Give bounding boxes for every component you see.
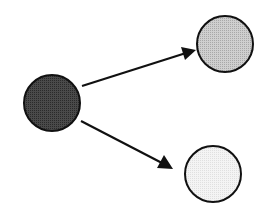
graph-svg	[0, 0, 274, 208]
edge-source-to-top	[82, 47, 196, 86]
node-source[interactable]	[24, 75, 80, 131]
arrowhead-icon	[181, 47, 196, 60]
node-target-top[interactable]	[197, 16, 253, 72]
edge-source-to-bottom	[81, 121, 173, 169]
node-target-bottom[interactable]	[185, 146, 241, 202]
diagram-canvas	[0, 0, 274, 208]
